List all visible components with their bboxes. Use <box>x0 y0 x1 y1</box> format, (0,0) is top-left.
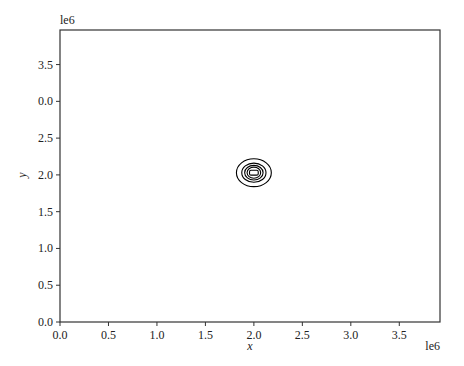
y-tick-label: 2.5 <box>38 131 53 145</box>
x-axis-label: x <box>246 339 253 353</box>
y-tick-label: 0.0 <box>38 94 53 108</box>
y-offset-text: le6 <box>60 13 75 27</box>
y-tick-label: 0.5 <box>38 278 53 292</box>
x-tick-label: 3.5 <box>392 328 407 342</box>
x-tick-label: 1.0 <box>149 328 164 342</box>
y-tick-label: 2.0 <box>38 168 53 182</box>
x-tick-label: 3.0 <box>343 328 358 342</box>
y-axis-label: y <box>15 172 29 179</box>
y-tick-label: 3.5 <box>38 58 53 72</box>
y-tick-label: 1.5 <box>38 205 53 219</box>
x-tick-label: 0.0 <box>53 328 68 342</box>
y-tick-label: 0.0 <box>38 315 53 329</box>
contour-figure: 0.00.51.01.52.02.53.03.5 0.00.51.01.52.0… <box>0 0 464 366</box>
x-tick-label: 0.5 <box>101 328 116 342</box>
y-tick-label: 1.0 <box>38 241 53 255</box>
x-tick-label: 2.5 <box>295 328 310 342</box>
x-offset-text: le6 <box>425 339 440 353</box>
x-tick-label: 1.5 <box>198 328 213 342</box>
figure-background <box>0 0 464 366</box>
